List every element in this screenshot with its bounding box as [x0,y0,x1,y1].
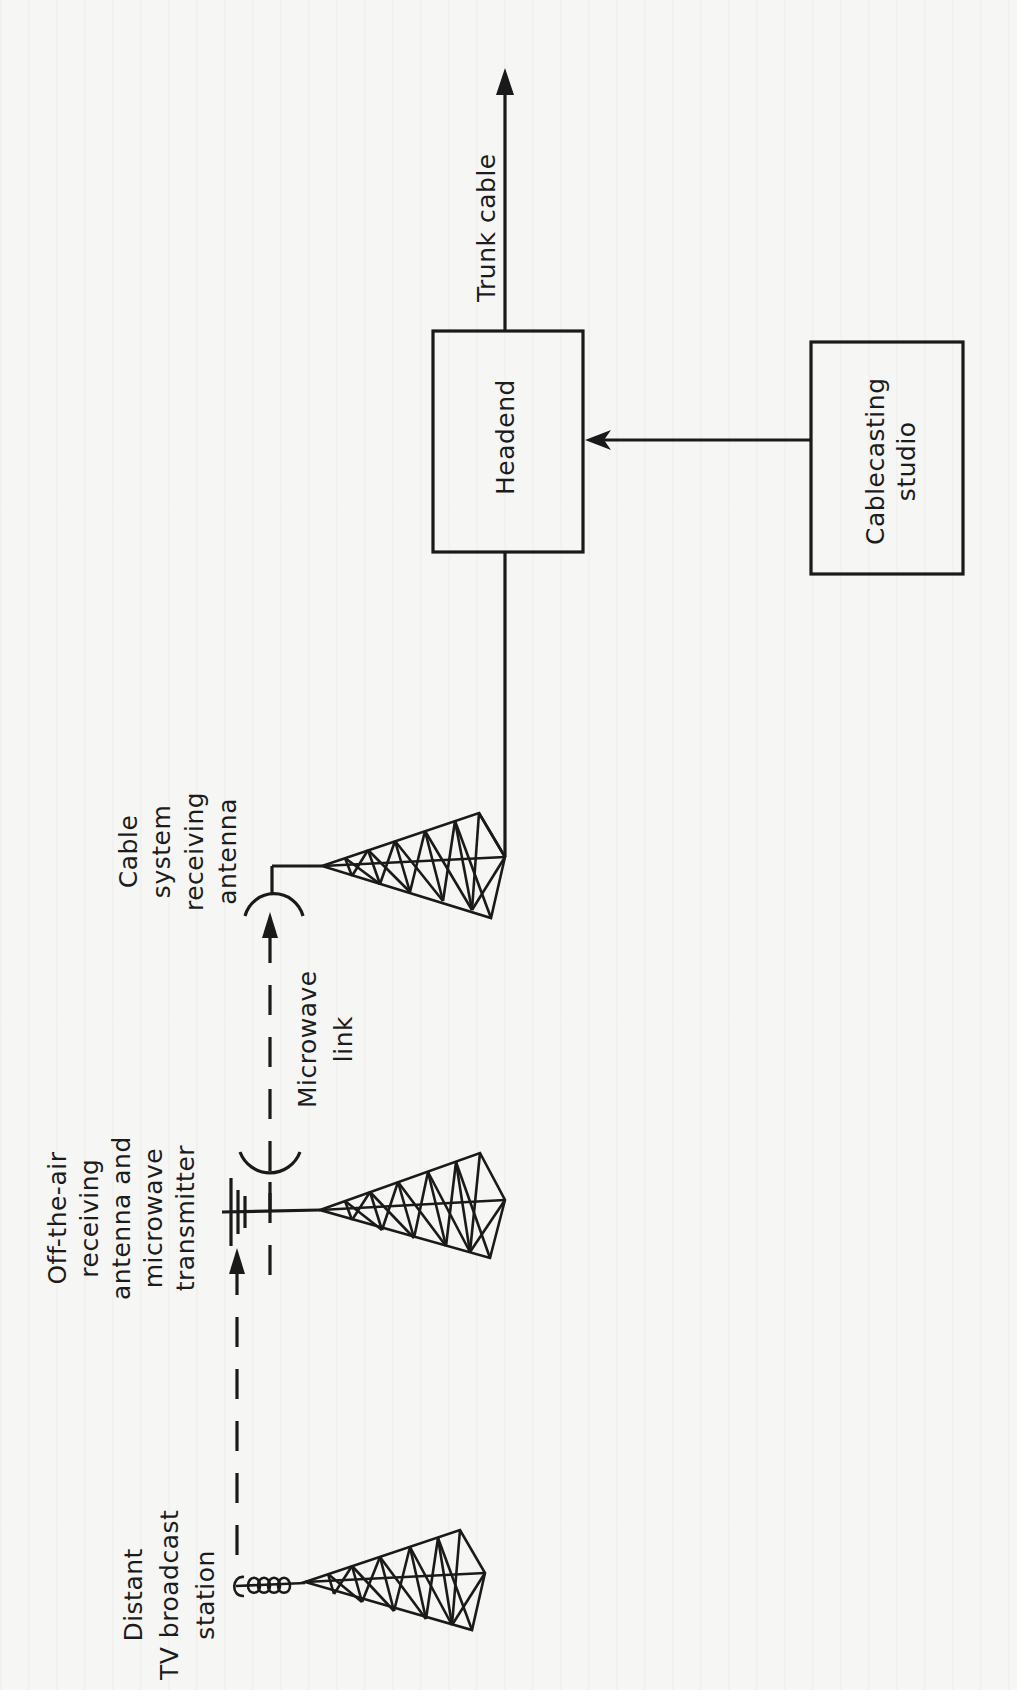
offair-transmitter-label: Off-the-air receiving antenna and microw… [42,1136,202,1300]
helical-antenna-icon [234,1577,305,1596]
broadcast-signal-arrow [229,1248,245,1555]
trunk-cable-label: Trunk cable [472,153,502,302]
cable-system-tower-icon [322,813,505,918]
microwave-link-arrow [262,912,278,1275]
book-page: Trunk cable Headend Cablecasting studio … [0,0,1017,1690]
studio-label: Cablecasting studio [860,377,922,545]
cable-receiver-label: Cable system receiving antenna [112,792,244,911]
distant-station-label: Distant TV broadcast station [116,1510,224,1680]
offair-tower-icon [320,1153,505,1258]
microwave-link-label: Microwave link [290,970,362,1108]
receiving-dish-icon [245,866,322,916]
headend-label: Headend [491,379,521,495]
distant-tower-icon [305,1530,485,1630]
studio-to-headend-arrow [585,430,810,450]
